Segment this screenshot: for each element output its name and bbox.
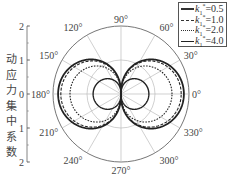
radial-tick-label: 1: [19, 123, 24, 134]
legend-item-k1.0: k1*=1.0: [181, 15, 226, 25]
radial-tick-label: 0: [19, 89, 24, 100]
angle-label-330: 330°: [184, 127, 203, 138]
y-axis-label-char: 力: [5, 83, 17, 99]
grid-spoke: [121, 94, 155, 153]
grid-spoke: [87, 35, 121, 94]
y-axis-label-char: 动: [5, 52, 17, 68]
legend-label: k1*=4.0: [195, 35, 224, 48]
legend-line-dashed: [181, 20, 194, 21]
legend: k1*=0.5 k1*=1.0 k1*=2.0 k1*=4.0: [178, 2, 227, 47]
angle-label-210: 210°: [39, 127, 58, 138]
y-axis-label-char: 应: [5, 68, 17, 84]
radial-axis: 21012: [19, 21, 30, 168]
radial-tick-label: 2: [19, 21, 24, 32]
angle-label-120: 120°: [64, 22, 83, 33]
grid-spoke: [121, 35, 155, 94]
y-axis-label: 动应力集中系数: [5, 52, 17, 161]
radial-tick-label: 1: [19, 55, 24, 66]
angle-label-240: 240°: [64, 155, 83, 166]
legend-line-solid: [181, 41, 194, 42]
y-axis-label-char: 数: [5, 145, 17, 161]
legend-item-k0.5: k1*=0.5: [181, 4, 226, 14]
angle-label-90: 90°: [114, 14, 128, 25]
grid-spoke: [121, 60, 180, 94]
legend-line-solid-thick: [181, 8, 194, 10]
angle-labels: 0°30°60°90°120°150°180°210°240°270°300°3…: [31, 14, 203, 176]
grid-spoke: [87, 94, 121, 153]
angle-label-60: 60°: [160, 22, 174, 33]
angle-label-0: 0°: [192, 89, 201, 100]
legend-item-k4.0: k1*=4.0: [181, 36, 226, 46]
y-axis-label-char: 系: [5, 130, 17, 146]
grid-spoke: [62, 60, 121, 94]
radial-tick-label: 2: [19, 157, 24, 168]
angle-label-30: 30°: [184, 50, 198, 61]
angle-label-150: 150°: [39, 50, 58, 61]
y-axis-label-char: 中: [5, 114, 17, 130]
angle-label-270: 270°: [112, 165, 131, 176]
legend-item-k2.0: k1*=2.0: [181, 25, 226, 35]
angle-label-180: 180°: [31, 89, 50, 100]
legend-line-dotted: [181, 30, 194, 31]
y-axis-label-char: 集: [5, 99, 17, 115]
angle-label-300: 300°: [160, 155, 179, 166]
